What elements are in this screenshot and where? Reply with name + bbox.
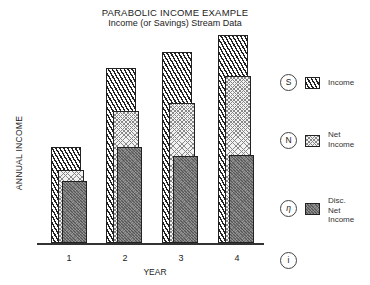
legend-label-income: Income [328,78,354,88]
legend-label-net-income: Net Income [328,130,354,149]
x-tick-4: 4 [227,253,247,263]
bar-disc-net-income-year-2 [117,147,142,243]
legend-symbol-i: i [280,252,297,269]
legend-label-disc-net-income: Disc. Net Income [328,196,354,225]
x-tick-3: 3 [171,253,191,263]
chart-title: PARABOLIC INCOME EXAMPLE [0,7,360,18]
bar-disc-net-income-year-3 [173,156,198,243]
bar-disc-net-income-year-1 [62,181,87,243]
legend-symbol-n: N [280,132,297,149]
x-tick-1: 1 [59,253,79,263]
x-axis-baseline [37,243,264,245]
x-tick-2: 2 [115,253,135,263]
legend-swatch-net-income [305,135,320,147]
chart-subtitle: Income (or Savings) Stream Data [0,18,360,28]
legend-symbol-eta: η [280,200,297,217]
legend-swatch-disc-net-income [305,203,320,215]
legend-swatch-income [305,77,320,89]
x-axis-label: YEAR [140,267,170,277]
bar-disc-net-income-year-4 [229,155,254,243]
y-axis-label: ANNUAL INCOME [14,108,24,198]
legend-symbol-s: S [280,74,297,91]
